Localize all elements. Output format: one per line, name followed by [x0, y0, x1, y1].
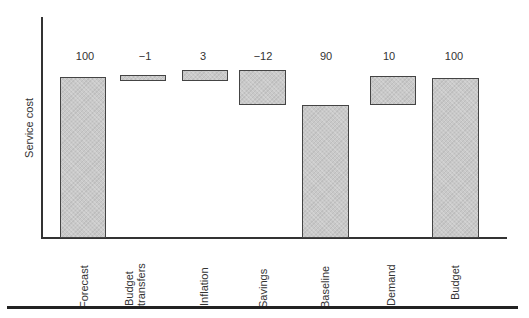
category-demand: Demand — [384, 248, 398, 308]
bar-savings — [239, 70, 286, 105]
category-label: Inflation — [198, 267, 210, 306]
category-label: Demand — [385, 264, 397, 306]
bar-budget-transfers — [120, 75, 166, 81]
bottom-rule — [7, 306, 518, 309]
category-label: Savings — [257, 269, 269, 308]
value-label-baseline: 90 — [296, 50, 356, 62]
value-label-budget: 100 — [424, 50, 484, 62]
y-axis-label: Service cost — [23, 98, 35, 158]
category-label: Forecast — [78, 265, 90, 308]
bar-demand — [370, 76, 416, 105]
bar-baseline — [302, 105, 349, 238]
value-label-budget-transfers: −1 — [115, 50, 175, 62]
category-inflation: Inflation — [197, 248, 211, 308]
value-label-savings: −12 — [233, 50, 293, 62]
bar-inflation — [182, 70, 228, 81]
bar-budget — [432, 78, 479, 238]
y-axis-line — [41, 17, 43, 239]
category-budget-transfers: Budget transfers — [134, 248, 148, 308]
value-label-inflation: 3 — [173, 50, 233, 62]
category-label: Budget — [449, 265, 461, 300]
category-budget: Budget — [448, 248, 462, 308]
bar-forecast — [60, 77, 106, 238]
category-label: Baseline — [319, 266, 331, 308]
value-label-forecast: 100 — [55, 50, 115, 62]
value-label-demand: 10 — [359, 50, 419, 62]
category-label: Budget transfers — [123, 263, 147, 306]
category-forecast: Forecast — [77, 248, 91, 308]
category-baseline: Baseline — [318, 248, 332, 308]
category-savings: Savings — [256, 248, 270, 308]
